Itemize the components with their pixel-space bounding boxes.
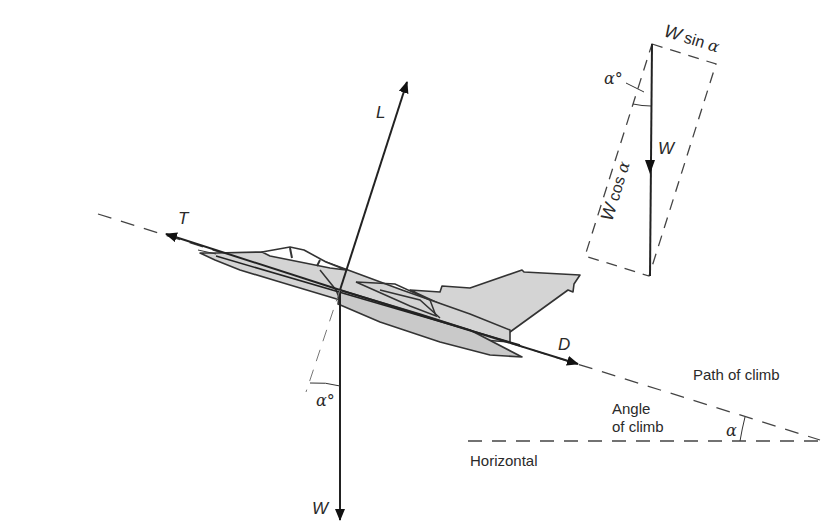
inset-weight-label: W — [658, 139, 676, 158]
angle-of-climb-label-line2: of climb — [612, 418, 664, 435]
fuselage-angle-label: α° — [316, 391, 335, 410]
horizontal-label: Horizontal — [470, 452, 538, 469]
fuselage-angle-arc — [310, 383, 340, 386]
climb-angle-label: α — [726, 421, 737, 440]
w-sin-label: Wsin α — [662, 21, 722, 57]
inset-angle-leader — [626, 83, 644, 92]
lift-label: L — [376, 103, 385, 122]
inset-angle-arc — [633, 104, 651, 106]
lift-arrow — [340, 82, 407, 290]
angle-of-climb-label-line1: Angle — [612, 400, 650, 417]
inset-angle-label: α° — [604, 69, 623, 88]
weight-label: W — [312, 499, 330, 518]
inset-weight-arrowhead — [645, 160, 655, 174]
path-of-climb-label: Path of climb — [693, 366, 780, 383]
climb-forces-diagram: L T D W W Wsin α Wcos α α° α° α Path of … — [0, 0, 835, 532]
fuselage-normal-line — [306, 290, 340, 392]
thrust-label: T — [178, 209, 190, 228]
w-cos-label: Wcos α — [597, 159, 634, 224]
climb-angle-arc — [740, 417, 745, 441]
drag-label: D — [558, 335, 570, 354]
